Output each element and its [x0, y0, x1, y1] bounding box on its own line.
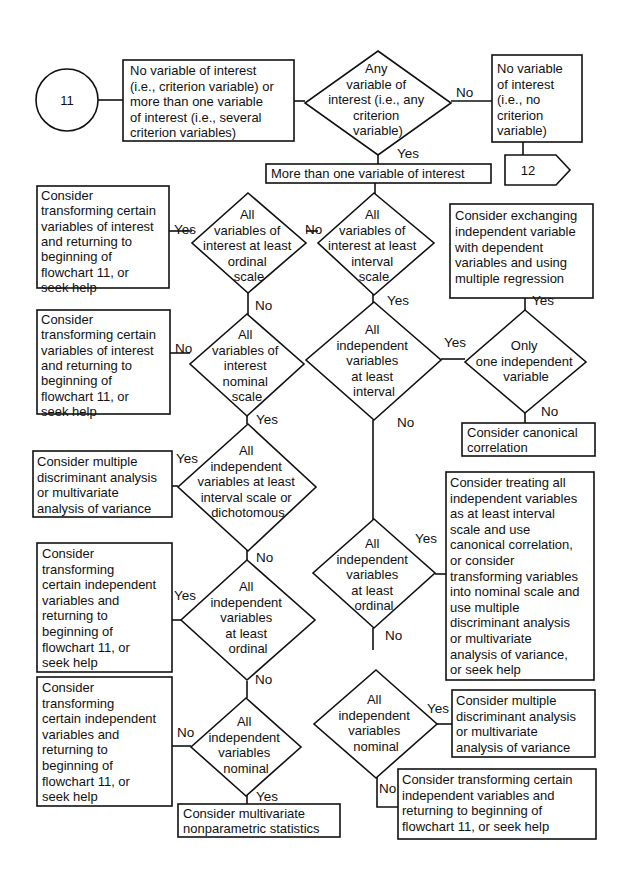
label-yes: Yes	[387, 293, 409, 308]
decision-independent-nominal-left: All independent variables nominal No Yes	[177, 698, 301, 804]
decision-ordinal-text: All variables of interest at least ordin…	[203, 207, 295, 284]
connector-11-label: 11	[60, 93, 74, 108]
box-nonparametric-statistics: Consider multivariate nonparametric stat…	[178, 804, 340, 837]
box-discriminant-analysis-1: Consider multiple discriminant analysis …	[33, 451, 172, 517]
offpage-connector-12: 12	[505, 155, 570, 185]
box-more-than-one-variable: More than one variable of interest	[266, 164, 491, 183]
label-no: No	[385, 628, 402, 643]
connector-12-label: 12	[521, 163, 535, 178]
box-no-or-multiple-variables: No variable of interest (i.e., criterion…	[123, 60, 294, 141]
decision-variables-nominal: All variables of interest nominal scale …	[175, 314, 304, 427]
decision-interval-text: All variables of interest at least inter…	[328, 207, 420, 284]
decision-independent-interval-dichotomous: All independent variables at least inter…	[176, 424, 316, 565]
box-canonical-correlation: Consider canonical correlation	[462, 423, 595, 456]
decision-independent-ordinal-right: All independent variables at least ordin…	[313, 519, 437, 643]
box-treat-text: Consider treating all independent variab…	[450, 475, 583, 677]
start-connector-11: 11	[36, 69, 98, 131]
decision-independent-ordinal-left: All independent variables at least ordin…	[174, 560, 315, 687]
label-yes: Yes	[176, 451, 198, 466]
label-yes: Yes	[415, 531, 437, 546]
label-no: No	[305, 222, 322, 237]
box-no-variable-of-interest: No variable of interest (i.e., no criter…	[492, 55, 582, 142]
label-no: No	[175, 341, 192, 356]
label-no: No	[255, 672, 272, 687]
label-no: No	[255, 298, 272, 313]
box-more-than-one-text: More than one variable of interest	[271, 166, 465, 181]
label-yes: Yes	[256, 789, 278, 804]
box-transform-independent-1: Consider transforming certain independen…	[37, 543, 172, 672]
box-transform-variables-2: Consider transforming certain variables …	[37, 310, 170, 419]
decision-any-variable-of-interest: Any variable of interest (i.e., any crit…	[305, 51, 473, 161]
decision-indep-dich-text: All independent variables at least inter…	[197, 443, 298, 520]
label-no: No	[177, 725, 194, 740]
label-no: No	[456, 85, 473, 100]
box-treat-independent-variables: Consider treating all independent variab…	[446, 472, 594, 680]
label-yes: Yes	[444, 335, 466, 350]
box-discriminant-analysis-2: Consider multiple discriminant analysis …	[452, 690, 595, 757]
box-exchange-variables: Consider exchanging independent variable…	[450, 204, 593, 298]
label-yes: Yes	[532, 293, 554, 308]
label-no: No	[541, 404, 558, 419]
label-yes: Yes	[427, 701, 449, 716]
box-nonparam-text: Consider multivariate nonparametric stat…	[183, 806, 320, 836]
label-yes: Yes	[256, 412, 278, 427]
box-transform-independent-2: Consider transforming certain independen…	[37, 677, 172, 806]
label-yes: Yes	[174, 222, 196, 237]
decision-one-independent: Only one independent variable Yes No	[465, 293, 586, 419]
label-no: No	[397, 415, 414, 430]
box-transform-independent-3: Consider transforming certain independen…	[398, 769, 596, 839]
decision-variables-interval: All variables of interest at least inter…	[305, 193, 434, 308]
label-no: No	[256, 550, 273, 565]
decision-variables-ordinal: All variables of interest at least ordin…	[174, 193, 306, 313]
decision-independent-interval: All independent variables at least inter…	[306, 302, 466, 430]
label-no: No	[379, 781, 396, 796]
box-transform-variables-1: Consider transforming certain variables …	[37, 186, 169, 295]
label-yes: Yes	[174, 588, 196, 603]
label-yes: Yes	[397, 146, 419, 161]
flowchart-canvas: 11 No variable of interest (i.e., criter…	[0, 0, 626, 881]
